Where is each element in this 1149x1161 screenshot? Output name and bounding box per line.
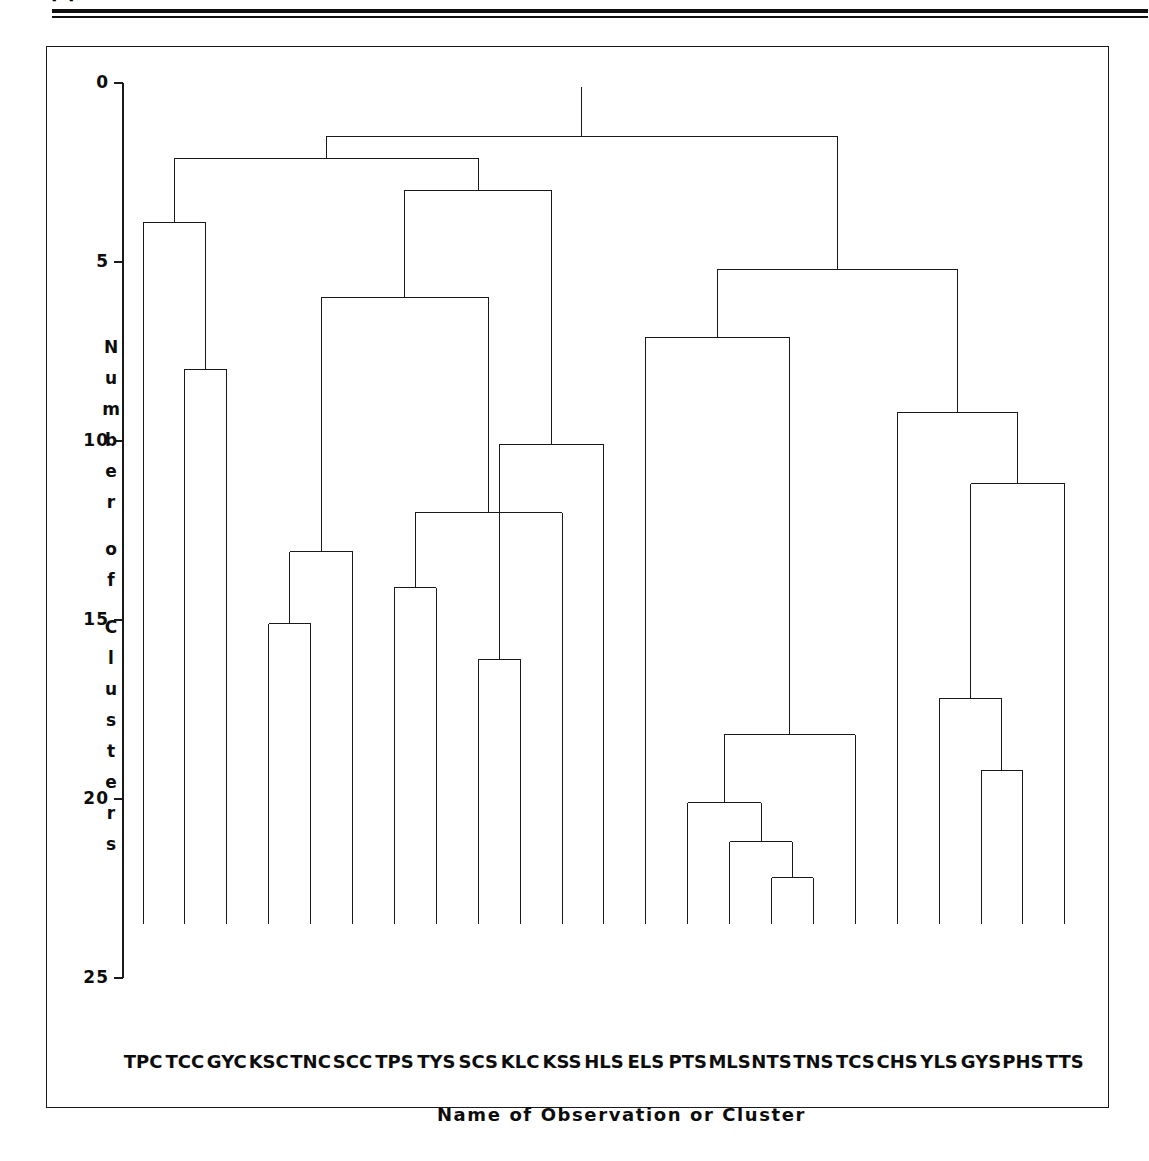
chart-frame: 0510152025 NumberofClusters TPCTCCGYCKSC… bbox=[46, 46, 1109, 1108]
y-title-char: t bbox=[99, 736, 123, 767]
y-title-char: l bbox=[99, 643, 123, 674]
y-title-char: b bbox=[99, 425, 123, 456]
header-rule-thin bbox=[52, 16, 1148, 18]
y-title-char: s bbox=[99, 829, 123, 860]
y-title-char: u bbox=[99, 363, 123, 394]
y-axis-title: NumberofClusters bbox=[99, 332, 123, 860]
y-title-char: C bbox=[99, 612, 123, 643]
leaf-label-TTS: TTS bbox=[1035, 1049, 1095, 1075]
y-title-char: f bbox=[99, 565, 123, 596]
y-tick-label-5: 5 bbox=[47, 253, 109, 270]
y-title-gap bbox=[99, 518, 123, 534]
y-title-char: r bbox=[99, 487, 123, 518]
y-title-char: r bbox=[99, 798, 123, 829]
scan-text-fragment: [3] bbox=[50, 0, 102, 9]
page-root: [3] 0510152025 NumberofClusters TPCTCCGY… bbox=[0, 0, 1149, 1161]
header-rule-thick bbox=[52, 9, 1148, 13]
y-title-char: e bbox=[99, 767, 123, 798]
x-axis-title: Name of Observation or Cluster bbox=[47, 1104, 1149, 1125]
y-title-char: e bbox=[99, 456, 123, 487]
y-title-char: s bbox=[99, 705, 123, 736]
y-title-char: N bbox=[99, 332, 123, 363]
y-title-gap bbox=[99, 596, 123, 612]
x-axis-leaf-labels: TPCTCCGYCKSCTNCSCCTPSTYSSCSKLCKSSHLSELSP… bbox=[47, 1049, 1149, 1075]
dendrogram-plot bbox=[47, 47, 1108, 1107]
y-tick-label-25: 25 bbox=[47, 969, 109, 986]
y-title-char: m bbox=[99, 394, 123, 425]
y-title-char: u bbox=[99, 674, 123, 705]
y-title-char: o bbox=[99, 534, 123, 565]
y-tick-label-0: 0 bbox=[47, 74, 109, 91]
